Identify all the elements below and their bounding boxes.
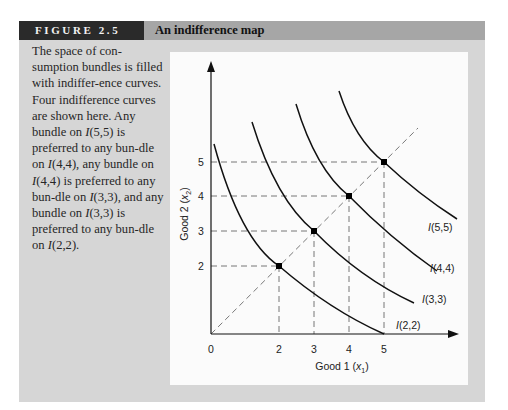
indifference-curve-4-4 — [296, 104, 437, 271]
y-tick: 4 — [198, 190, 204, 202]
indifference-curve-5-5 — [339, 91, 457, 219]
curve-label-5-5: I(5,5) — [428, 221, 453, 233]
x-tick: 2 — [276, 343, 282, 355]
x-axis-arrow-icon — [448, 330, 459, 338]
point-5-5 — [381, 159, 387, 165]
point-2-2 — [276, 263, 282, 269]
y-tick: 3 — [198, 225, 204, 237]
y-tick: 5 — [198, 156, 204, 168]
point-4-4 — [346, 193, 352, 199]
y-tick: 2 — [198, 260, 204, 272]
curve-label-2-2: I(2,2) — [396, 319, 421, 331]
x-axis-title: Good 1 (x1) — [315, 360, 369, 374]
x-tick: 4 — [346, 343, 352, 355]
y-axis-arrow-icon — [207, 61, 215, 72]
origin-label: 0 — [208, 343, 214, 355]
x-tick: 3 — [311, 343, 317, 355]
x-tick: 5 — [381, 343, 387, 355]
curve-label-4-4: I(4,4) — [430, 262, 455, 274]
y-axis-title: Good 2 (x2) — [178, 187, 192, 241]
indifference-chart: 0 2 3 4 5 5 4 3 2 Good 1 (x1) Good 2 (x2… — [0, 0, 508, 410]
point-3-3 — [311, 228, 317, 234]
curve-label-3-3: I(3,3) — [422, 293, 447, 305]
